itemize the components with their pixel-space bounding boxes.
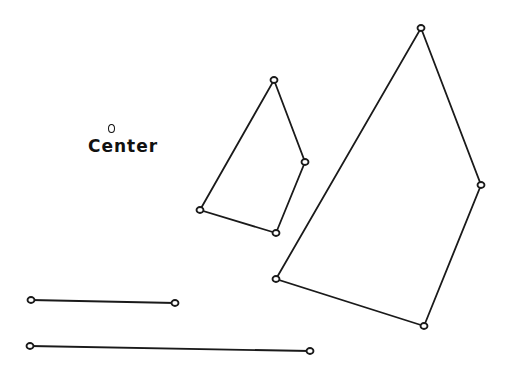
small-quadrilateral-vertex-handle[interactable] xyxy=(273,230,280,236)
short-line-segment-vertex-handle[interactable] xyxy=(172,300,179,306)
short-line-segment[interactable] xyxy=(31,300,175,303)
diagram-canvas xyxy=(0,0,515,369)
large-quadrilateral-vertex-handle[interactable] xyxy=(273,276,280,282)
small-quadrilateral-vertex-handle[interactable] xyxy=(302,159,309,165)
large-quadrilateral[interactable] xyxy=(276,28,481,326)
large-quadrilateral-vertex-handle[interactable] xyxy=(418,25,425,31)
large-quadrilateral-vertex-handle[interactable] xyxy=(478,182,485,188)
long-line-segment-vertex-handle[interactable] xyxy=(27,343,34,349)
small-quadrilateral[interactable] xyxy=(200,80,305,233)
long-line-segment-vertex-handle[interactable] xyxy=(307,348,314,354)
long-line-segment[interactable] xyxy=(30,346,310,351)
small-quadrilateral-vertex-handle[interactable] xyxy=(271,77,278,83)
large-quadrilateral-vertex-handle[interactable] xyxy=(421,323,428,329)
small-quadrilateral-vertex-handle[interactable] xyxy=(197,207,204,213)
short-line-segment-vertex-handle[interactable] xyxy=(28,297,35,303)
